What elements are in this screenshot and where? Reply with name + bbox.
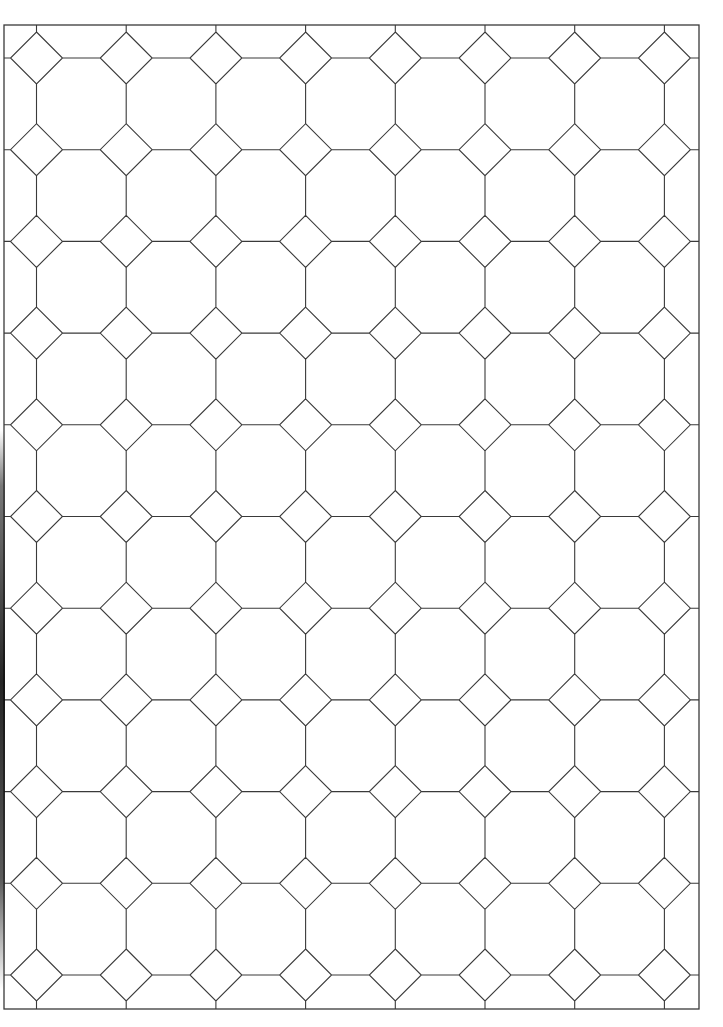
tiling-lines xyxy=(4,25,699,1009)
octagon-square-grid xyxy=(4,25,699,1009)
tiling-sheet xyxy=(0,0,723,1027)
scan-shadow xyxy=(0,430,5,990)
